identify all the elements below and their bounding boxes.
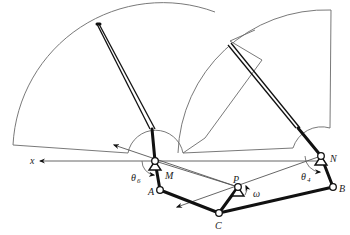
pivot-M (149, 158, 161, 170)
label-B: B (339, 183, 345, 194)
label-P: P (232, 174, 239, 185)
label-omega: ω (253, 188, 260, 199)
label-theta6: θ 6 (131, 172, 141, 185)
joint-B (330, 184, 337, 191)
svg-text:6: 6 (137, 177, 141, 185)
x-axis: x (29, 155, 321, 166)
x-axis-label: x (29, 155, 35, 166)
svg-text:θ: θ (131, 172, 136, 183)
left-sweep-sector (13, 3, 215, 153)
right-sweep-sector (178, 10, 331, 153)
label-M: M (164, 170, 174, 181)
linkage-diagram: x M (0, 0, 350, 235)
joint-A (157, 187, 164, 194)
label-A: A (147, 186, 155, 197)
label-theta4: θ 4 (301, 171, 311, 184)
svg-text:θ: θ (301, 171, 306, 182)
svg-text:4: 4 (307, 176, 311, 184)
joint-C (216, 210, 223, 217)
label-N: N (329, 153, 338, 164)
label-C: C (215, 220, 222, 231)
pivot-N (315, 153, 327, 165)
left-wiper-blade (97, 24, 155, 129)
